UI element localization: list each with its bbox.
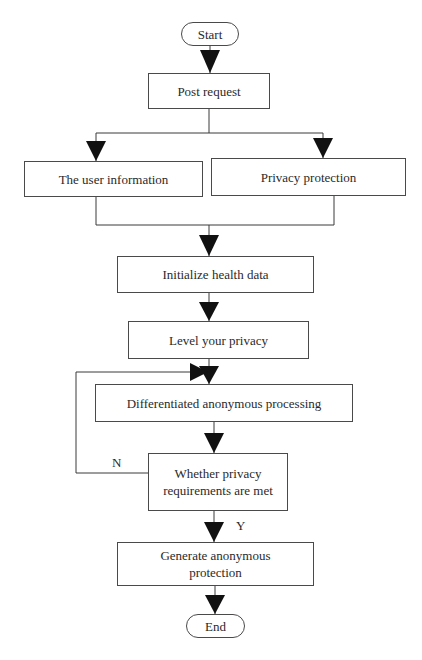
arrow-icon [199,302,219,321]
differentiated-processing-node: Differentiated anonymous processing [95,384,353,422]
generate-protection-label: Generate anonymous protection [152,547,279,581]
no-edge-label: N [112,455,121,471]
end-label: End [205,618,226,635]
generate-protection-node: Generate anonymous protection [117,542,314,586]
arrow-icon [205,595,225,614]
post-request-node: Post request [148,73,270,109]
arrow-icon [313,138,333,158]
arrow-icon [190,363,208,381]
start-node: Start [181,22,239,46]
initialize-health-data-node: Initialize health data [117,256,314,293]
yes-edge-label: Y [236,518,245,534]
post-request-label: Post request [177,83,240,100]
arrow-icon [204,522,224,542]
start-label: Start [198,26,223,43]
privacy-protection-node: Privacy protection [211,158,406,196]
privacy-protection-label: Privacy protection [261,169,357,186]
user-information-node: The user information [24,161,203,197]
arrow-icon [204,433,224,453]
decision-label: Whether privacy requirements are met [163,465,273,499]
initialize-health-data-label: Initialize health data [162,266,268,283]
arrow-icon [200,50,220,73]
user-information-label: The user information [59,171,169,188]
arrow-icon [86,141,106,161]
level-privacy-label: Level your privacy [169,332,268,349]
end-node: End [186,614,245,638]
arrow-icon [199,235,219,256]
level-privacy-node: Level your privacy [128,321,309,359]
decision-node: Whether privacy requirements are met [148,453,288,511]
differentiated-processing-label: Differentiated anonymous processing [127,395,322,412]
